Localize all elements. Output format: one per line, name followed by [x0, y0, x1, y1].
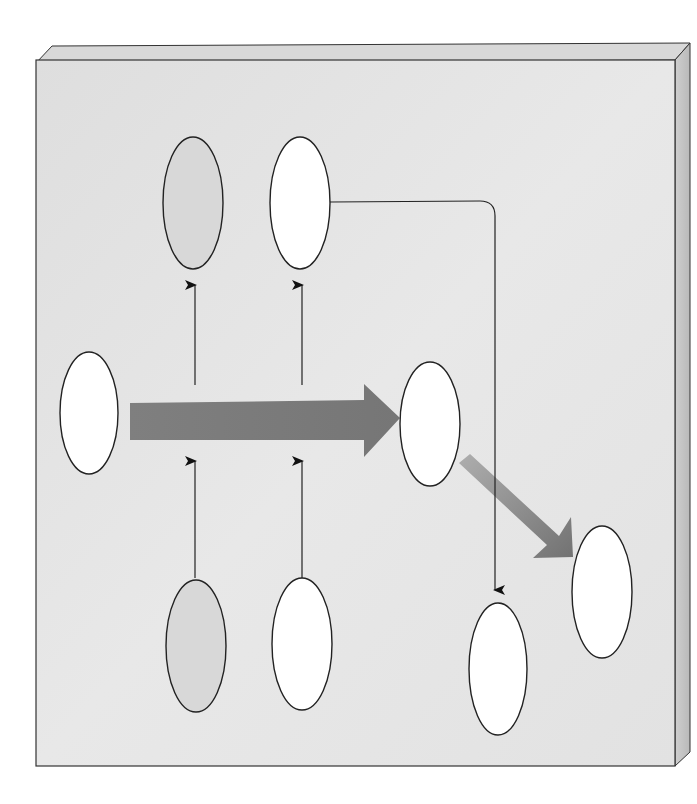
node-bottom-white [272, 578, 332, 710]
node-far-right [572, 526, 632, 658]
node-left-input [60, 352, 118, 474]
node-bottom-right-low [469, 603, 527, 735]
node-top-white [270, 137, 330, 269]
node-center-right [400, 362, 460, 486]
node-bottom-gray [166, 580, 226, 712]
node-top-gray [163, 137, 223, 269]
diagram-canvas [0, 0, 697, 804]
slab-side-face [675, 43, 690, 766]
